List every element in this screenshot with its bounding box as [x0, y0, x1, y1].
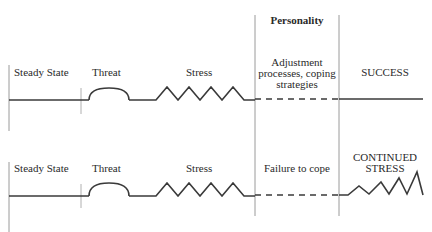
row-top-stage-threat: Threat: [92, 66, 121, 78]
stress-coping-diagram: [0, 0, 432, 232]
row-top-threat-arc: [89, 88, 129, 100]
personality-header: Personality: [255, 14, 339, 26]
row-top-personality-line-3: strategies: [255, 78, 339, 90]
row-bottom-continued-stress-zigzag: [339, 172, 423, 195]
row-top-outcome-success: SUCCESS: [339, 66, 431, 78]
row-bottom-stage-stress: Stress: [186, 162, 212, 174]
row-bottom-stage-threat: Threat: [92, 162, 121, 174]
row-bottom-stage-steady-state: Steady State: [14, 162, 69, 174]
row-top-stage-stress: Stress: [186, 66, 212, 78]
row-bottom-personality-failure: Failure to cope: [255, 162, 339, 174]
row-top-stage-steady-state: Steady State: [14, 66, 69, 78]
row-bottom-threat-arc: [89, 183, 129, 196]
row-bottom-outcome-line-2: STRESS: [339, 162, 431, 174]
row-top-stress-zigzag: [129, 87, 255, 100]
row-bottom-stress-zigzag: [129, 183, 255, 196]
